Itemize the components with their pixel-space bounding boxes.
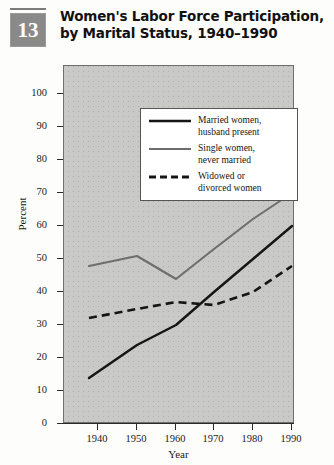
x-tick-mark <box>97 423 98 430</box>
plot-area: Married women, husband present Single wo… <box>63 65 294 423</box>
y-tick-label: 20 <box>37 352 48 362</box>
y-tick-label: 90 <box>37 121 48 131</box>
series-married-women <box>89 226 292 378</box>
figure-header: 13 Women's Labor Force Participation, by… <box>0 0 334 58</box>
legend-item: Widowed or divorced women <box>148 171 290 194</box>
x-tick-mark <box>175 423 176 430</box>
legend-label: Single women, never married <box>198 143 255 166</box>
y-tick-label: 40 <box>37 286 48 296</box>
legend-label-line-2: husband present <box>198 127 261 139</box>
legend-label-line-1: Married women, <box>198 115 261 127</box>
x-tick-mark <box>136 423 137 430</box>
y-tick-label: 0 <box>42 418 47 428</box>
legend-label-line-1: Widowed or <box>198 171 262 183</box>
series-widowed-divorced <box>89 266 292 318</box>
legend-label: Married women, husband present <box>198 115 261 138</box>
figure-page: 13 Women's Labor Force Participation, by… <box>0 0 334 465</box>
y-tick-label: 70 <box>37 187 48 197</box>
legend-label-line-2: never married <box>198 155 255 167</box>
legend-swatch-solid-black-icon <box>148 115 192 129</box>
y-axis: 100 90 80 70 60 50 40 30 20 10 0 Percent <box>0 58 60 430</box>
legend-label: Widowed or divorced women <box>198 171 262 194</box>
x-axis-label: Year <box>63 448 294 460</box>
y-tick-label: 80 <box>37 154 48 164</box>
figure-number-badge-wrap: 13 <box>10 8 46 47</box>
legend-label-line-1: Single women, <box>198 143 255 155</box>
x-tick-mark <box>213 423 214 430</box>
x-tick-label: 1980 <box>232 433 272 444</box>
legend-swatch-dashed-black-icon <box>148 171 192 185</box>
legend-label-line-2: divorced women <box>198 183 262 195</box>
legend-item: Single women, never married <box>148 143 290 166</box>
figure-title-line-1: Women's Labor Force Participation, <box>60 8 332 25</box>
x-tick-label: 1960 <box>155 433 195 444</box>
x-tick-label: 1950 <box>116 433 156 444</box>
chart-legend: Married women, husband present Single wo… <box>140 108 298 201</box>
y-axis-label: Percent <box>16 179 28 249</box>
badge-top-rule <box>10 8 46 10</box>
figure-number-badge: 13 <box>10 13 46 47</box>
y-tick-label: 10 <box>37 385 48 395</box>
figure-title: Women's Labor Force Participation, by Ma… <box>60 8 332 42</box>
x-tick-label: 1970 <box>193 433 233 444</box>
series-single-women <box>89 193 292 279</box>
legend-item: Married women, husband present <box>148 115 290 138</box>
figure-title-line-2: by Marital Status, 1940–1990 <box>60 25 332 42</box>
x-tick-mark <box>252 423 253 430</box>
x-tick-label: 1940 <box>77 433 117 444</box>
y-tick-label: 30 <box>37 319 48 329</box>
x-tick-label: 1990 <box>271 433 311 444</box>
y-tick-label: 50 <box>37 253 48 263</box>
x-tick-mark <box>291 423 292 430</box>
legend-swatch-solid-gray-icon <box>148 143 192 157</box>
y-tick-label: 100 <box>31 88 47 98</box>
chart-container: 100 90 80 70 60 50 40 30 20 10 0 Percent <box>0 58 334 465</box>
y-tick-label: 60 <box>37 220 48 230</box>
